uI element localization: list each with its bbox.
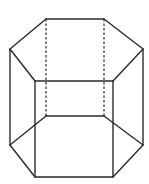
edge-top-back-right-to-top-right [104,19,143,49]
visible-edges [10,19,143,177]
edge-bottom-left-to-bottom-back-left [10,116,46,145]
edge-bottom-left-to-bottom-front-left [10,145,35,177]
edge-top-right-to-top-front-right [113,49,143,81]
hexagonal-prism-diagram [0,0,149,184]
edge-bottom-back-right-to-bottom-right [104,116,143,145]
edge-bottom-front-right-to-bottom-right [113,145,143,177]
hidden-edges [46,19,104,116]
edge-top-left-to-top-back-left [10,19,46,49]
edge-top-front-left-to-top-left [10,49,35,81]
